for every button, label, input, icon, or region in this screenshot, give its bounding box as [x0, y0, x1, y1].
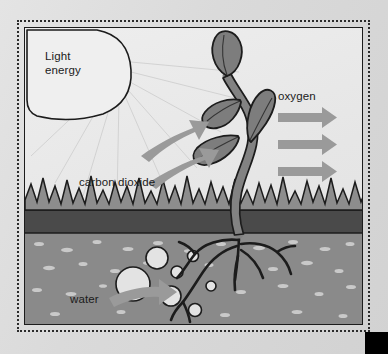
label-oxygen: oxygen: [278, 90, 316, 104]
label-carbon-dioxide: carbon dioxide: [79, 176, 155, 190]
oxygen-arrow: [278, 134, 337, 155]
screenshot-root: Light energy carbon dioxide oxygen water: [0, 0, 388, 354]
oxygen-arrow: [278, 107, 337, 128]
carbon-dioxide-arrow: [141, 120, 209, 162]
corner-black-block: [365, 332, 388, 354]
label-light-energy-line2: energy: [45, 64, 81, 76]
water-arrow: [109, 279, 177, 307]
label-light-energy: Light energy: [45, 50, 105, 77]
label-water: water: [70, 293, 99, 307]
carbon-dioxide-arrow: [148, 148, 219, 189]
oxygen-arrow: [278, 161, 337, 182]
label-light-energy-line1: Light: [45, 50, 70, 62]
illustration-panel: Light energy carbon dioxide oxygen water: [24, 27, 363, 325]
